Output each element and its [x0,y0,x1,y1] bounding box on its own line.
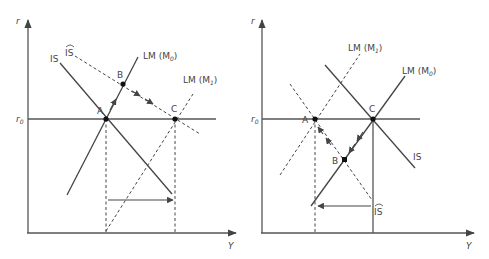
left-point-c-label: C [171,104,177,114]
right-path-arrow-ba-2 [318,127,323,134]
right-lm-m0-label: LM (M0) [402,66,436,77]
right-is-label: IS [413,152,422,162]
right-point-b [342,157,347,162]
right-path-arrow-cb-2 [349,144,355,153]
left-panel: r Y r0 IS IS LM (M0) LM (M1) A B [16,16,236,251]
right-point-a [312,116,317,121]
right-point-a-label: A [302,115,309,125]
right-point-c-label: C [369,104,375,114]
left-lm-m1-label: LM (M1) [183,75,217,86]
left-is-hat-caret-icon [66,45,74,47]
left-path-arrow-bc-1 [132,91,140,96]
right-x-axis-label: Y [466,241,473,251]
left-lm-m1-curve [106,94,193,231]
left-x-axis-label: Y [228,241,235,251]
right-point-c [370,116,375,121]
left-r0-label: r0 [16,114,24,125]
left-point-c [172,116,177,121]
right-panel: r Y r0 IS IS LM (M0) LM (M1) A [251,16,474,251]
right-lm-m1-curve [280,54,360,175]
right-lm-m1-label: LM (M1) [348,43,382,54]
left-point-b [120,81,125,86]
left-path-arrow-ab [110,99,116,110]
left-lm-m0-label: LM (M0) [143,51,177,62]
is-lm-diagram: r Y r0 IS IS LM (M0) LM (M1) A B [0,0,489,259]
left-point-a-label: A [97,106,104,116]
left-is-label: IS [50,54,59,64]
left-path-arrow-bc-2 [145,99,153,104]
right-is-hat-label: IS [374,207,383,217]
left-is-hat-label: IS [65,48,74,58]
right-y-axis-label: r [251,16,256,26]
left-y-axis-label: r [16,16,21,26]
left-is-curve [60,63,172,194]
right-r0-label: r0 [251,114,259,125]
left-point-b-label: B [117,70,123,80]
right-is-hat-caret-icon [375,204,383,206]
left-point-a [103,116,108,121]
left-lm-m0-curve [67,57,138,195]
right-point-b-label: B [332,156,338,166]
right-path-arrow-cb-1 [357,132,363,141]
